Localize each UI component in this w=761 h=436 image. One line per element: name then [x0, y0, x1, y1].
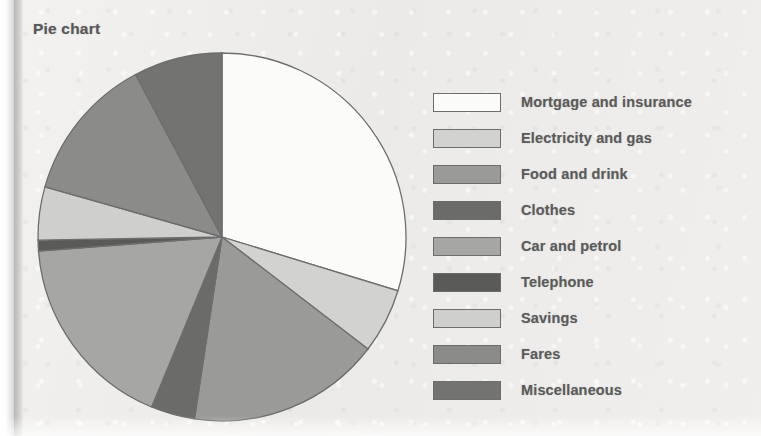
legend-item-label: Car and petrol [521, 238, 621, 254]
legend-item: Miscellaneous [433, 372, 753, 408]
pie-chart-canvas [36, 51, 408, 423]
legend-item: Fares [433, 336, 753, 372]
pie-chart-svg [36, 51, 408, 423]
legend-item-label: Miscellaneous [521, 382, 622, 398]
page-title: Pie chart [33, 20, 100, 38]
page-gutter-shadow-inner [14, 0, 24, 436]
legend-item-label: Fares [521, 346, 560, 362]
legend-item-label: Telephone [521, 274, 594, 290]
chart-legend: Mortgage and insuranceElectricity and ga… [433, 84, 753, 408]
legend-swatch-icon [433, 201, 501, 220]
legend-swatch-icon [433, 309, 501, 328]
legend-swatch-icon [433, 381, 501, 400]
legend-swatch-icon [433, 345, 501, 364]
page-bottom-band [0, 416, 761, 436]
legend-item: Savings [433, 300, 753, 336]
legend-item-label: Savings [521, 310, 578, 326]
pie-chart-figure: Pie chart Mortgage and insuranceElectric… [0, 0, 761, 436]
legend-item-label: Electricity and gas [521, 130, 652, 146]
legend-item-label: Food and drink [521, 166, 628, 182]
legend-item-label: Clothes [521, 202, 575, 218]
legend-swatch-icon [433, 165, 501, 184]
legend-swatch-icon [433, 129, 501, 148]
legend-swatch-icon [433, 93, 501, 112]
legend-item: Clothes [433, 192, 753, 228]
legend-item: Mortgage and insurance [433, 84, 753, 120]
legend-item: Car and petrol [433, 228, 753, 264]
legend-item: Food and drink [433, 156, 753, 192]
legend-swatch-icon [433, 237, 501, 256]
legend-item: Electricity and gas [433, 120, 753, 156]
legend-item-label: Mortgage and insurance [521, 94, 692, 110]
pie-slices-group [38, 53, 406, 421]
legend-item: Telephone [433, 264, 753, 300]
legend-swatch-icon [433, 273, 501, 292]
